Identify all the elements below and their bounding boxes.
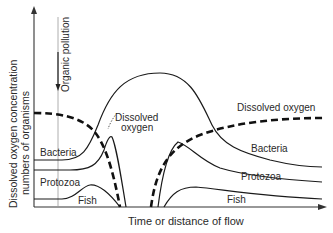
fish-curve-left (34, 185, 120, 207)
bacteria-right-label: Bacteria (251, 143, 288, 154)
y-axis (31, 6, 37, 207)
bacteria-left-label: Bacteria (40, 147, 77, 158)
x-axis-label: Time or distance of flow (128, 215, 244, 227)
dissolved-oxygen-right-label: Dissolved oxygen (237, 102, 315, 113)
fish-left-label: Fish (78, 195, 97, 206)
y-axis-label-line1: Dissolved oxygen concentration (7, 60, 19, 208)
y-axis-label-line2: numbers of organisms (19, 91, 31, 195)
dissolved-oxygen-left-label-line2: oxygen (121, 122, 153, 133)
pollution-label: Organic pollution (60, 17, 71, 92)
y-axis-arrow-icon (31, 6, 37, 14)
fish-right-label: Fish (227, 194, 246, 205)
x-axis-arrow-icon (318, 204, 327, 210)
protozoa-right-label: Protozoa (241, 171, 281, 182)
protozoa-left-label: Protozoa (40, 177, 80, 188)
pollution-succession-diagram: Dissolved oxygen concentration numbers o… (0, 0, 333, 233)
